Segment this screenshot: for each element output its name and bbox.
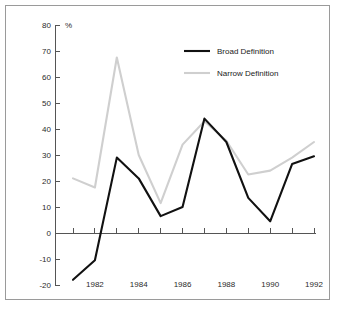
line-chart-plot: 80706050403020100-10-20 1982198419861988… [6, 6, 329, 299]
x-tick-label: 1984 [130, 280, 148, 289]
x-tick-label: 1986 [174, 280, 192, 289]
chart-figure: 80706050403020100-10-20 1982198419861988… [0, 0, 337, 312]
y-tick-label: 10 [42, 203, 51, 212]
chart-border-frame: 80706050403020100-10-20 1982198419861988… [5, 5, 330, 300]
x-tick-label: 1988 [217, 280, 235, 289]
y-tick-label: 50 [42, 99, 51, 108]
legend-label-broad-definition: Broad Definition [217, 47, 274, 56]
y-tick-label: 70 [42, 47, 51, 56]
y-axis: 80706050403020100-10-20 [39, 21, 60, 290]
series-line-broad-definition [73, 119, 314, 280]
y-tick-label: -10 [39, 255, 51, 264]
y-tick-label: 0 [47, 229, 52, 238]
y-tick-label: -20 [39, 281, 51, 290]
y-tick-label: 30 [42, 151, 51, 160]
y-axis-unit-label: % [65, 21, 72, 30]
chart-legend: Broad DefinitionNarrow Definition [184, 47, 278, 78]
y-tick-label: 40 [42, 125, 51, 134]
series-line-narrow-definition [73, 58, 314, 204]
x-tick-label: 1982 [86, 280, 104, 289]
y-tick-label: 20 [42, 177, 51, 186]
y-tick-label: 60 [42, 73, 51, 82]
y-tick-label: 80 [42, 21, 51, 30]
series-lines [73, 58, 314, 280]
legend-label-narrow-definition: Narrow Definition [217, 69, 278, 78]
x-tick-label: 1992 [305, 280, 323, 289]
x-tick-label: 1990 [261, 280, 279, 289]
